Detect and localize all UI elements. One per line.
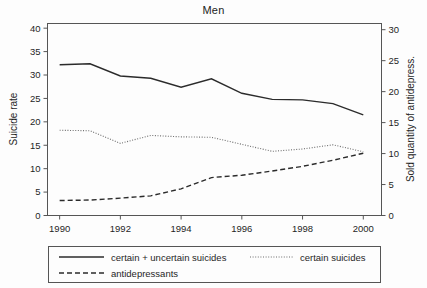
plot-frame <box>48 24 382 216</box>
series-line-certain-suicides <box>60 130 364 152</box>
y-axis-left-tick-label: 10 <box>30 163 41 174</box>
x-axis-tick-label: 1990 <box>49 223 70 234</box>
y-axis-right-tick-label: 0 <box>389 210 394 221</box>
y-axis-left-tick-label: 15 <box>30 140 41 151</box>
x-axis-tick-label: 1998 <box>292 223 313 234</box>
x-axis-tick-label: 1992 <box>110 223 131 234</box>
legend-label-antidepressants: antidepressants <box>111 268 178 279</box>
y-axis-left-tick-label: 30 <box>30 69 41 80</box>
y-axis-left-tick-label: 20 <box>30 116 41 127</box>
y-axis-right-title: Sold quantity of antidepress. <box>405 56 416 182</box>
series-line-antidepressants <box>60 153 364 200</box>
y-axis-right-tick-label: 30 <box>389 24 400 35</box>
y-axis-right-tick-label: 20 <box>389 86 400 97</box>
legend-label-certain-suicides: certain suicides <box>300 252 366 263</box>
x-axis-ticks <box>60 216 364 220</box>
y-axis-left-tick-label: 40 <box>30 23 41 34</box>
x-axis-tick-labels: 199019921994199619982000 <box>49 223 374 234</box>
chart-canvas: 0510152025303540 051015202530 1990199219… <box>0 0 427 288</box>
y-axis-left-tick-labels: 0510152025303540 <box>30 23 41 221</box>
y-axis-right-tick-label: 10 <box>389 148 400 159</box>
y-axis-left-tick-label: 25 <box>30 93 41 104</box>
x-axis-tick-label: 2000 <box>353 223 374 234</box>
y-axis-right-tick-labels: 051015202530 <box>389 24 400 221</box>
y-axis-left-tick-label: 5 <box>35 186 40 197</box>
x-axis-tick-label: 1994 <box>171 223 192 234</box>
y-axis-left-title: Suicide rate <box>8 92 19 145</box>
x-axis-tick-label: 1996 <box>231 223 252 234</box>
y-axis-right-tick-label: 15 <box>389 117 400 128</box>
y-axis-left-tick-label: 0 <box>35 210 40 221</box>
y-axis-right-tick-label: 5 <box>389 179 394 190</box>
y-axis-left-ticks <box>44 28 48 215</box>
chart-figure: Men 0510152025303540 051015202530 199019… <box>0 0 427 288</box>
legend-label-certain-uncertain-suicides: certain + uncertain suicides <box>111 252 227 263</box>
y-axis-right-tick-label: 25 <box>389 55 400 66</box>
y-axis-right-ticks <box>382 30 386 216</box>
y-axis-left-tick-label: 35 <box>30 46 41 57</box>
series-line-certain-uncertain-suicides <box>60 64 364 115</box>
